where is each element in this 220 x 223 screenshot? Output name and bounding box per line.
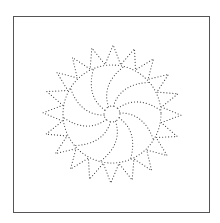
inner-ring: [63, 65, 161, 163]
spoke-curve: [63, 117, 106, 126]
spoke-curve: [118, 102, 161, 111]
dotted-sunburst-figure: [0, 0, 220, 223]
spoke-curve: [91, 69, 105, 111]
spoke-curve: [107, 67, 124, 107]
pinwheel-spokes: [63, 67, 161, 162]
spoke-curve: [100, 121, 117, 161]
spoke-curve: [120, 113, 154, 140]
spoke-curve: [70, 88, 104, 115]
sunburst-spikes: [43, 45, 181, 183]
spike-zigzag-path: [43, 45, 181, 183]
spoke-curve: [119, 118, 133, 160]
